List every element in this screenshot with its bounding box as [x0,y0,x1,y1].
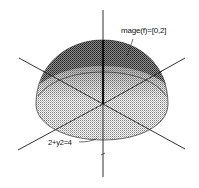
hemisphere-plot [0,0,199,188]
circle-equation-label: 2+y2=4 [48,138,72,147]
image-range-label: mage(f)=[0,2] [121,26,166,35]
